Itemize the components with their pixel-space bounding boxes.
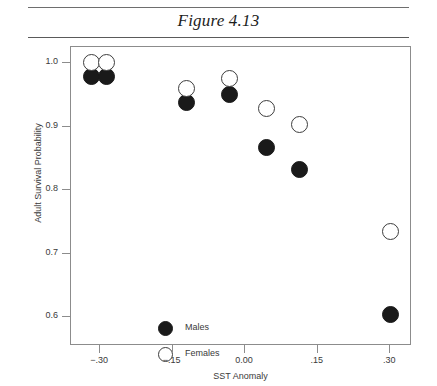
x-axis-title: SST Anomaly [70, 371, 411, 381]
data-point-females [98, 54, 115, 71]
figure-container: Figure 4.13 Males Females 0.60.70.80.91.… [0, 0, 437, 386]
x-tick-mark [389, 345, 390, 353]
y-tick-mark [62, 253, 70, 254]
y-tick-mark [62, 62, 70, 63]
data-point-males [178, 94, 195, 111]
filled-circle-icon [158, 321, 173, 336]
data-point-males [382, 306, 399, 323]
x-tick-label: .30 [359, 355, 419, 365]
x-tick-mark [99, 345, 100, 353]
x-tick-label: −.15 [142, 355, 202, 365]
data-point-females [221, 70, 238, 87]
data-point-males [221, 86, 238, 103]
x-tick-label: 0.00 [214, 355, 274, 365]
title-rule-top [28, 7, 409, 8]
x-tick-mark [317, 345, 318, 353]
legend-label-males: Males [185, 322, 209, 332]
data-point-females [178, 80, 195, 97]
y-axis-title: Adult Survival Probability [33, 73, 43, 273]
y-tick-mark [62, 126, 70, 127]
y-tick-mark [62, 189, 70, 190]
data-point-males [291, 161, 308, 178]
data-point-females [382, 223, 399, 240]
x-tick-mark [172, 345, 173, 353]
plot-area: Males Females [70, 46, 411, 345]
x-tick-mark [244, 345, 245, 353]
y-tick-label: 0.6 [18, 310, 58, 320]
data-point-males [258, 139, 275, 156]
figure-title: Figure 4.13 [0, 11, 437, 31]
y-tick-mark [62, 316, 70, 317]
data-point-females [291, 116, 308, 133]
title-rule-bottom [28, 37, 409, 38]
x-tick-label: .15 [287, 355, 347, 365]
data-point-females [83, 54, 100, 71]
y-tick-label: 1.0 [18, 56, 58, 66]
x-tick-label: −.30 [69, 355, 129, 365]
data-point-females [258, 100, 275, 117]
